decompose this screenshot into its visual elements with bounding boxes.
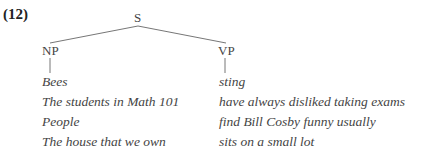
node-s: S [134, 10, 141, 26]
vp-row-2: have always disliked taking exams [219, 94, 405, 110]
np-row-1: Bees [42, 74, 67, 90]
edge-s-np [50, 26, 138, 43]
node-vp: VP [218, 43, 235, 59]
np-row-2: The students in Math 101 [42, 94, 179, 110]
vp-row-4: sits on a small lot [219, 134, 314, 150]
np-row-3: People [42, 114, 79, 130]
node-np: NP [42, 43, 59, 59]
np-row-4: The house that we own [42, 134, 166, 150]
edge-s-vp [138, 26, 226, 43]
vp-row-1: sting [219, 74, 245, 90]
vp-row-3: find Bill Cosby funny usually [219, 114, 376, 130]
